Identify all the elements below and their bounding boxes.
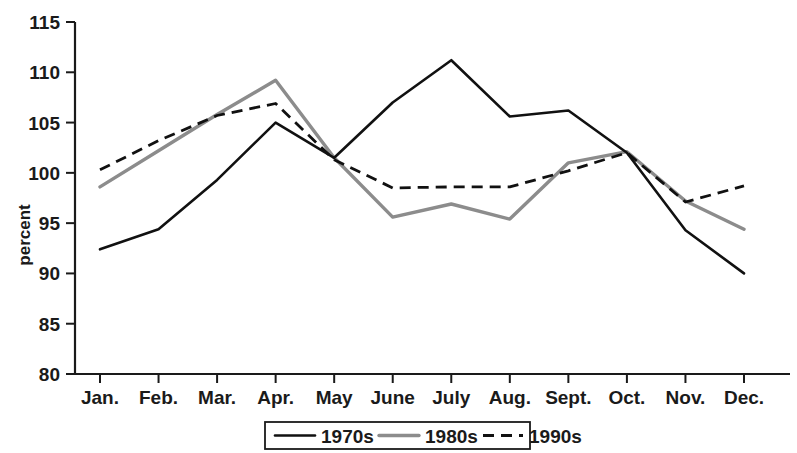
legend-label-1990s: 1990s — [529, 426, 582, 447]
chart-container: 80859095100105110115 Jan.Feb.Mar.Apr.May… — [0, 0, 797, 453]
data-series-group — [100, 60, 744, 273]
series-line-1990s — [100, 104, 744, 203]
x-axis-ticks — [100, 374, 744, 383]
x-tick-label: Apr. — [257, 387, 294, 408]
y-axis-ticks — [66, 22, 75, 374]
y-tick-label: 110 — [29, 62, 60, 83]
legend-label-1970s: 1970s — [321, 426, 374, 447]
y-tick-label: 90 — [39, 263, 60, 284]
y-axis-tick-labels: 80859095100105110115 — [28, 12, 60, 385]
series-line-1980s — [100, 80, 744, 229]
y-tick-label: 85 — [39, 314, 61, 335]
x-tick-label: Jan. — [81, 387, 119, 408]
x-tick-label: June — [371, 387, 415, 408]
x-tick-label: Dec. — [724, 387, 764, 408]
y-tick-label: 105 — [28, 113, 60, 134]
line-chart: 80859095100105110115 Jan.Feb.Mar.Apr.May… — [0, 0, 797, 453]
x-axis-tick-labels: Jan.Feb.Mar.Apr.MayJuneJulyAug.Sept.Oct.… — [81, 387, 764, 408]
y-tick-label: 80 — [39, 364, 60, 385]
x-tick-label: Mar. — [198, 387, 236, 408]
y-axis-title: percent — [15, 204, 34, 266]
y-tick-label: 95 — [39, 213, 61, 234]
chart-legend: 1970s1980s1990s — [265, 422, 582, 449]
x-tick-label: July — [432, 387, 470, 408]
x-tick-label: Oct. — [608, 387, 645, 408]
x-tick-label: Sept. — [545, 387, 591, 408]
legend-label-1980s: 1980s — [425, 426, 478, 447]
y-tick-label: 100 — [28, 163, 60, 184]
x-tick-label: May — [316, 387, 353, 408]
x-tick-label: Feb. — [139, 387, 178, 408]
y-tick-label: 115 — [29, 12, 60, 33]
x-tick-label: Nov. — [666, 387, 706, 408]
x-tick-label: Aug. — [489, 387, 531, 408]
